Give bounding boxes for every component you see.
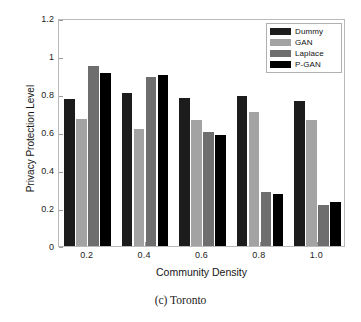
y-axis-tick-label: 0.4 xyxy=(8,166,54,176)
bar xyxy=(146,77,157,246)
bar xyxy=(249,112,260,246)
x-axis-tick-label: 1.0 xyxy=(310,250,323,260)
legend-item: P-GAN xyxy=(270,60,337,69)
legend-swatch xyxy=(270,28,291,35)
bar xyxy=(203,132,214,246)
bar xyxy=(294,101,305,246)
bar xyxy=(122,93,133,246)
chart-legend: DummyGANLaplaceP-GAN xyxy=(266,23,342,73)
legend-item: GAN xyxy=(270,38,337,47)
x-axis-title: Community Density xyxy=(58,266,345,278)
legend-swatch xyxy=(270,50,291,57)
x-axis-tick-label: 0.2 xyxy=(80,250,93,260)
x-axis-tick-labels: 0.20.40.60.81.0 xyxy=(58,250,345,266)
bar xyxy=(76,119,87,246)
y-axis-tick-label: 0.6 xyxy=(8,128,54,138)
bar xyxy=(64,99,75,246)
y-axis-tick-mark xyxy=(59,58,63,59)
x-axis-tick-label: 0.8 xyxy=(252,250,265,260)
y-axis-tick-label: 1.2 xyxy=(8,14,54,24)
bar xyxy=(179,98,190,246)
bar xyxy=(191,120,202,246)
legend-label: GAN xyxy=(295,38,313,47)
y-axis-tick-label: 0 xyxy=(8,242,54,252)
y-axis-tick-mark xyxy=(59,210,63,211)
bar xyxy=(273,194,284,246)
legend-label: Dummy xyxy=(295,27,323,36)
legend-swatch xyxy=(270,61,291,68)
y-axis-tick-mark xyxy=(59,247,63,248)
bar xyxy=(158,75,169,246)
y-axis-tick-labels: 00.20.40.60.811.2 xyxy=(4,19,54,247)
figure-canvas: Privacy Protection Level 00.20.40.60.811… xyxy=(0,0,361,322)
bar xyxy=(215,135,226,246)
x-axis-tick-label: 0.6 xyxy=(195,250,208,260)
bar xyxy=(88,66,99,246)
bar xyxy=(134,129,145,246)
y-axis-tick-mark xyxy=(59,20,63,21)
legend-label: P-GAN xyxy=(295,60,321,69)
y-axis-tick-label: 1 xyxy=(8,52,54,62)
bar xyxy=(100,73,111,246)
x-axis-tick-label: 0.4 xyxy=(138,250,151,260)
bar xyxy=(306,120,317,246)
y-axis-tick-mark xyxy=(59,96,63,97)
figure-caption: (c) Toronto xyxy=(0,294,361,306)
legend-swatch xyxy=(270,39,291,46)
y-axis-tick-mark xyxy=(59,134,63,135)
bar xyxy=(237,96,248,246)
y-axis-tick-mark xyxy=(59,172,63,173)
bar xyxy=(318,205,329,246)
legend-label: Laplace xyxy=(295,49,324,58)
y-axis-tick-label: 0.2 xyxy=(8,204,54,214)
bar xyxy=(330,202,341,246)
legend-item: Laplace xyxy=(270,49,337,58)
bar xyxy=(261,192,272,246)
y-axis-tick-label: 0.8 xyxy=(8,90,54,100)
legend-item: Dummy xyxy=(270,27,337,36)
